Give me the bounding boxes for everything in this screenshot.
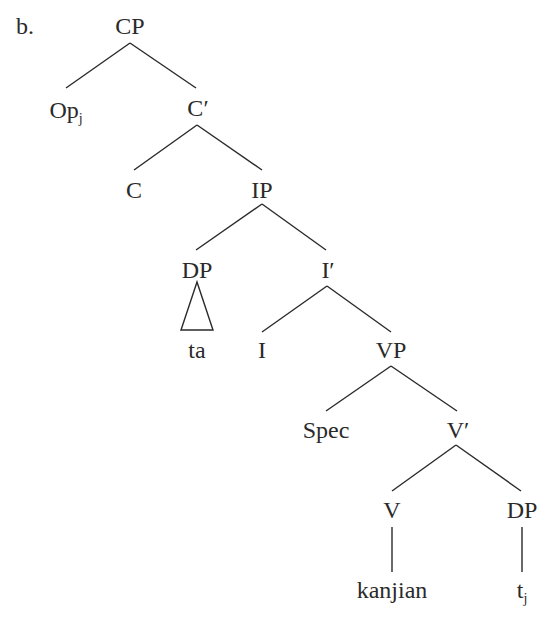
node-op-label: Op (49, 97, 78, 123)
leaf-ta: ta (188, 338, 205, 362)
leaf-trace: tj (517, 578, 528, 606)
example-label: b. (16, 14, 34, 38)
node-op: Opj (49, 98, 82, 126)
branch-ip-dp (196, 204, 262, 250)
branch-cp-cbar (130, 43, 196, 88)
node-c: C (126, 178, 142, 202)
branch-vbar-dp (456, 445, 521, 491)
node-dp-subject: DP (182, 258, 213, 282)
trace-label: t (517, 577, 524, 603)
node-vp: VP (376, 338, 407, 362)
branch-vp-vbar (391, 366, 457, 411)
branch-cbar-c (134, 125, 197, 170)
tree-branches (0, 0, 550, 619)
syntax-tree: b. CP Opj C′ C IP DP ta I′ I VP Spec V′ … (0, 0, 550, 619)
branch-cp-op (66, 43, 130, 88)
trace-index: j (523, 591, 527, 606)
branch-ibar-i (262, 286, 327, 332)
branch-ibar-vp (327, 286, 391, 332)
node-cp: CP (115, 14, 144, 38)
node-c-bar: C′ (187, 96, 208, 120)
dp-triangle (181, 282, 213, 330)
node-spec: Spec (303, 418, 350, 442)
branch-ip-ibar (262, 204, 326, 250)
node-i: I (258, 338, 266, 362)
node-v: V (383, 498, 400, 522)
branch-vp-spec (326, 366, 391, 411)
node-v-bar: V′ (447, 418, 470, 442)
node-op-index: j (79, 111, 83, 126)
branch-cbar-ip (197, 125, 262, 170)
node-dp-object: DP (507, 498, 538, 522)
node-i-bar: I′ (321, 258, 334, 282)
node-ip: IP (251, 178, 272, 202)
leaf-kanjian: kanjian (357, 578, 428, 602)
branch-vbar-v (392, 445, 456, 491)
